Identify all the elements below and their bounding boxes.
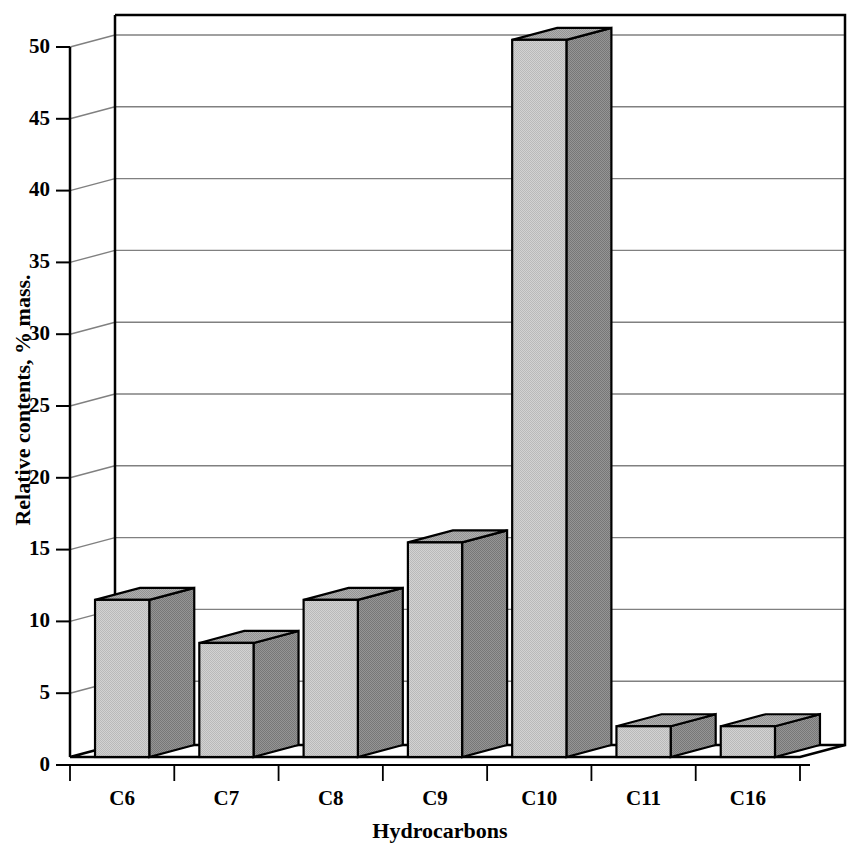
bar-front-face	[616, 726, 670, 757]
bar-front-face	[408, 542, 462, 757]
y-tick-label: 15	[29, 536, 50, 560]
bar-C6	[95, 588, 194, 757]
x-tick-label-C11: C11	[626, 786, 661, 810]
gridline-depth-connector	[70, 250, 115, 262]
x-tick-label-C7: C7	[214, 786, 240, 810]
gridline-depth-connector	[70, 107, 115, 119]
y-tick-label: 10	[29, 608, 50, 632]
gridline-depth-connector	[70, 322, 115, 334]
y-tick-label: 40	[29, 177, 50, 201]
bar-chart-figure: 05101520253035404550 C6C7C8C9C10C11C16 H…	[0, 0, 861, 866]
x-tick-label-C16: C16	[730, 786, 766, 810]
y-tick-label: 5	[40, 680, 51, 704]
bar-side-face	[462, 530, 507, 757]
bar-front-face	[199, 643, 253, 757]
y-tick-label: 0	[40, 752, 51, 776]
gridline-depth-connector	[70, 35, 115, 47]
bar-front-face	[95, 600, 149, 757]
bar-side-face	[358, 588, 403, 757]
gridline-depth-connector	[70, 394, 115, 406]
bar-side-face	[149, 588, 194, 757]
bar-C9	[408, 530, 507, 757]
x-tick-label-C8: C8	[318, 786, 344, 810]
y-tick-label: 50	[29, 34, 50, 58]
gridline-depth-connector	[70, 179, 115, 191]
gridline-depth-connector	[70, 466, 115, 478]
y-axis-title: Relative contents, % mass.	[10, 274, 35, 525]
bar-front-face	[304, 600, 358, 757]
gridline-depth-connector	[70, 538, 115, 550]
x-axis-title: Hydrocarbons	[372, 818, 508, 843]
bar-C7	[199, 631, 298, 757]
y-tick-label: 45	[29, 106, 50, 130]
bar-side-face	[566, 28, 611, 757]
x-axis-ticks: C6C7C8C9C10C11C16	[70, 765, 800, 810]
bar-side-face	[254, 631, 299, 757]
bar-C8	[304, 588, 403, 757]
chart-canvas: 05101520253035404550 C6C7C8C9C10C11C16 H…	[0, 0, 861, 866]
x-tick-label-C10: C10	[521, 786, 557, 810]
x-tick-label-C6: C6	[109, 786, 135, 810]
bar-front-face	[512, 40, 566, 757]
y-tick-label: 35	[29, 249, 50, 273]
bar-front-face	[721, 726, 775, 757]
x-tick-label-C9: C9	[422, 786, 448, 810]
y-axis-ticks: 05101520253035404550	[29, 34, 70, 776]
bar-C10	[512, 28, 611, 757]
